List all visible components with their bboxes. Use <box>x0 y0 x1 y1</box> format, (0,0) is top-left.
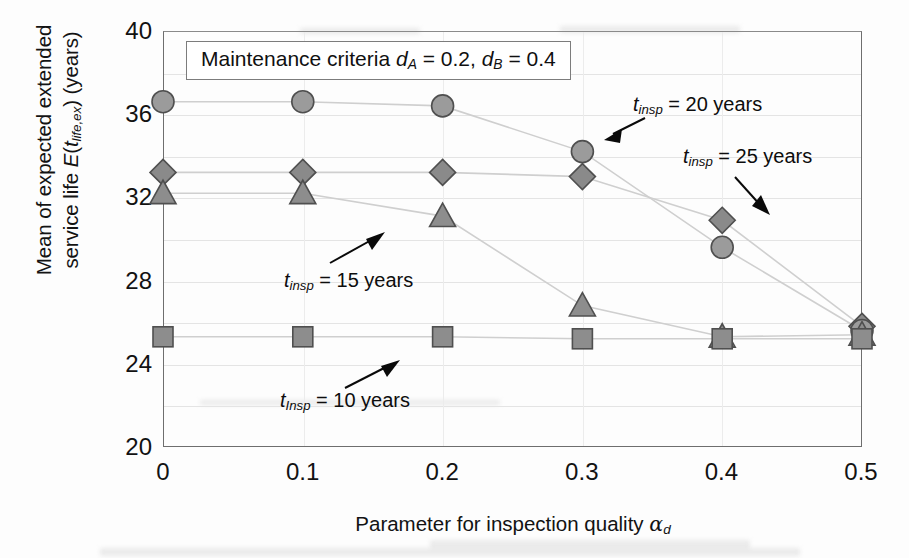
title-db-value: = 0.4 <box>503 47 556 70</box>
y-tick-label: 36 <box>100 100 152 128</box>
title-da-symbol: d <box>396 47 408 70</box>
gridline-vertical <box>304 32 305 446</box>
y-axis-title-subscript: life,ex <box>69 107 84 142</box>
gridline-horizontal <box>164 323 861 324</box>
annotation-t-subscript: Insp <box>286 398 311 413</box>
x-tick-label: 0.4 <box>686 458 756 486</box>
x-tick-label: 0.5 <box>826 458 896 486</box>
x-axis-tick-labels: 0 0.1 0.2 0.3 0.4 0.5 <box>163 458 862 492</box>
scan-artifact <box>100 548 800 556</box>
x-tick-label: 0.1 <box>268 458 338 486</box>
x-tick-label: 0.2 <box>407 458 477 486</box>
title-prefix: Maintenance criteria <box>201 47 396 70</box>
title-da-value: = 0.2, <box>417 47 482 70</box>
annotation-text: = 25 years <box>713 145 813 167</box>
annotation-tinsp-25: tinsp = 25 years <box>683 145 812 169</box>
y-tick-label: 20 <box>100 433 152 461</box>
y-axis-title: Mean of expected extended service life E… <box>30 0 90 350</box>
gridline-horizontal <box>164 365 861 366</box>
annotation-tinsp-15: tinsp = 15 years <box>284 269 413 293</box>
annotation-t-subscript: insp <box>290 278 314 293</box>
title-db-subscript: B <box>493 56 502 72</box>
title-da-subscript: A <box>408 56 417 72</box>
gridline-horizontal <box>164 240 861 241</box>
y-axis-title-prefix: service life <box>59 167 82 268</box>
x-tick-label: 0 <box>128 458 198 486</box>
annotation-t-subscript: insp <box>689 154 713 169</box>
chart-title-box: Maintenance criteria dA = 0.2, dB = 0.4 <box>186 41 571 80</box>
y-axis-title-e: E <box>59 154 82 168</box>
x-axis-title: Parameter for inspection quality αd <box>163 512 863 537</box>
y-tick-label: 32 <box>100 183 152 211</box>
y-axis-title-paren-close: ) <box>59 100 82 107</box>
x-axis-title-prefix: Parameter for inspection quality <box>355 512 649 535</box>
annotation-text: = 15 years <box>314 269 414 291</box>
annotation-text: = 10 years <box>311 389 411 411</box>
annotation-text: = 20 years <box>663 93 763 115</box>
annotation-tinsp-10: tInsp = 10 years <box>280 389 410 413</box>
gridline-horizontal <box>164 282 861 283</box>
y-axis-title-line1: Mean of expected extended <box>30 0 57 350</box>
gridline-vertical <box>443 32 444 446</box>
y-axis-title-paren-open: ( <box>59 147 82 154</box>
y-axis-title-t: t <box>59 141 82 147</box>
x-axis-title-alpha: α <box>649 512 663 536</box>
x-tick-label: 0.3 <box>547 458 617 486</box>
y-tick-label: 28 <box>100 267 152 295</box>
gridline-vertical <box>583 32 584 446</box>
y-axis-title-units: (years) <box>59 31 82 100</box>
y-tick-label: 24 <box>100 350 152 378</box>
y-axis-title-line2: service life E(tlife,ex) (years) <box>57 0 90 350</box>
gridline-horizontal <box>164 406 861 407</box>
gridline-horizontal <box>164 198 861 199</box>
title-db-symbol: d <box>482 47 494 70</box>
y-tick-label: 40 <box>100 17 152 45</box>
x-axis-title-subscript: d <box>663 522 671 537</box>
annotation-t-subscript: insp <box>639 102 663 117</box>
y-axis-tick-labels: 40 36 32 28 24 20 <box>96 31 152 447</box>
chart-screenshot: Mean of expected extended service life E… <box>0 0 909 558</box>
annotation-tinsp-20: tinsp = 20 years <box>633 93 762 117</box>
